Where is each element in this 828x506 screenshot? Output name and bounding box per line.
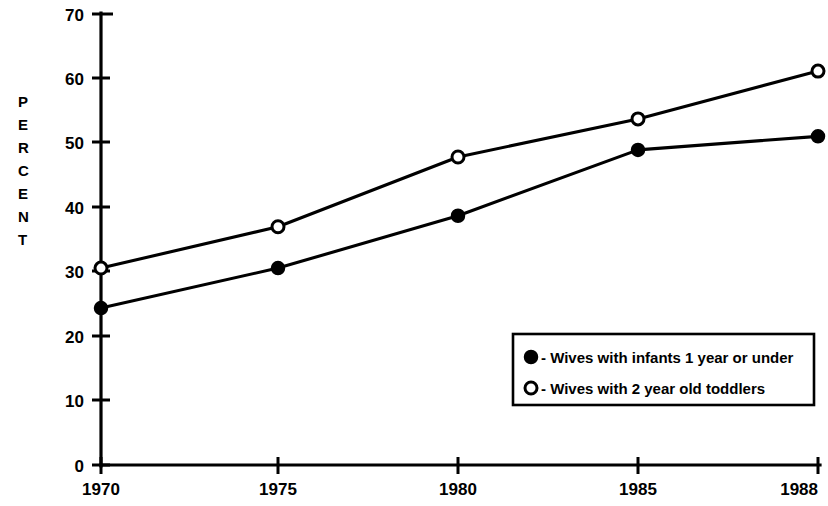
y-axis-title-letter-5: N bbox=[18, 208, 29, 225]
y-axis-title-letter-1: E bbox=[18, 116, 28, 133]
x-tick-label-1985: 1985 bbox=[619, 480, 657, 499]
y-axis-title-letter-2: R bbox=[18, 139, 29, 156]
y-tick-label-10: 10 bbox=[65, 392, 84, 411]
data-point-1-1975 bbox=[272, 262, 285, 275]
data-point-1-1985 bbox=[632, 143, 645, 156]
y-tick-label-20: 20 bbox=[65, 328, 84, 347]
data-point-2-1975 bbox=[272, 221, 284, 233]
y-tick-label-50: 50 bbox=[65, 134, 84, 153]
y-tick-label-60: 60 bbox=[65, 70, 84, 89]
data-point-2-1970 bbox=[95, 262, 107, 274]
y-axis-title: P E R C E N T bbox=[18, 93, 29, 248]
legend-label-toddlers: - Wives with 2 year old toddlers bbox=[541, 380, 765, 397]
y-tick-label-40: 40 bbox=[65, 199, 84, 218]
data-point-2-1985 bbox=[632, 113, 644, 125]
data-point-1-1988 bbox=[812, 130, 825, 143]
legend-label-infants: - Wives with infants 1 year or under bbox=[541, 349, 794, 366]
line-chart: 0 10 20 30 40 50 60 70 1970 1975 1980 19… bbox=[0, 0, 828, 506]
x-tick-label-1975: 1975 bbox=[259, 480, 297, 499]
data-point-1-1970 bbox=[95, 302, 108, 315]
y-axis-title-letter-0: P bbox=[18, 93, 28, 110]
series-layer bbox=[95, 65, 825, 314]
series-line-2 bbox=[101, 71, 818, 268]
data-point-1-1980 bbox=[452, 209, 465, 222]
chart-container: 0 10 20 30 40 50 60 70 1970 1975 1980 19… bbox=[0, 0, 828, 506]
legend-marker-filled-circle-icon bbox=[525, 351, 538, 364]
legend-marker-open-circle-icon bbox=[525, 382, 537, 394]
y-axis-title-letter-3: C bbox=[18, 162, 29, 179]
x-tick-label-1980: 1980 bbox=[439, 480, 477, 499]
y-axis-title-letter-4: E bbox=[18, 185, 28, 202]
chart-legend: - Wives with infants 1 year or under - W… bbox=[513, 334, 814, 405]
y-tick-label-0: 0 bbox=[75, 457, 84, 476]
data-point-2-1980 bbox=[452, 151, 464, 163]
y-tick-label-70: 70 bbox=[65, 6, 84, 25]
y-tick-label-30: 30 bbox=[65, 263, 84, 282]
data-point-2-1988 bbox=[812, 65, 824, 77]
y-axis-title-letter-6: T bbox=[18, 231, 27, 248]
x-tick-label-1988: 1988 bbox=[780, 480, 818, 499]
x-tick-label-1970: 1970 bbox=[82, 480, 120, 499]
